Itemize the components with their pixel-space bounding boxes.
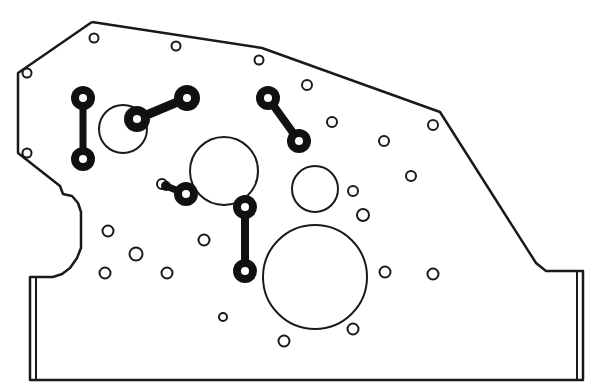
mounting-hole	[172, 42, 181, 51]
mounting-hole	[103, 226, 114, 237]
mounting-hole	[279, 336, 290, 347]
mounting-hole	[23, 69, 32, 78]
mounting-hole	[406, 171, 416, 181]
bore-circle	[292, 166, 338, 212]
link-bar	[124, 85, 200, 132]
mounting-hole	[348, 324, 359, 335]
mounting-hole	[380, 267, 391, 278]
large-bores	[99, 105, 367, 329]
mounting-hole	[302, 80, 312, 90]
mounting-hole	[90, 34, 99, 43]
mounting-hole	[348, 186, 358, 196]
plate-drawing	[0, 0, 606, 392]
link-bar	[233, 195, 257, 283]
mounting-hole	[357, 209, 369, 221]
link-bar	[256, 86, 311, 153]
mounting-hole	[23, 149, 32, 158]
mounting-hole	[219, 313, 227, 321]
bore-circle	[263, 225, 367, 329]
mounting-hole	[327, 117, 337, 127]
mounting-holes	[23, 34, 439, 347]
link-bar	[161, 181, 198, 206]
mounting-hole	[199, 235, 210, 246]
mounting-hole	[162, 268, 173, 279]
link-bars	[71, 85, 311, 283]
mounting-hole	[428, 120, 438, 130]
mounting-hole	[379, 136, 389, 146]
link-bar	[71, 86, 95, 171]
plate-diagram	[0, 0, 606, 392]
mounting-hole	[428, 269, 439, 280]
mounting-hole	[100, 268, 111, 279]
bore-circle	[190, 137, 258, 205]
mounting-hole	[255, 56, 264, 65]
mounting-hole	[130, 248, 143, 261]
